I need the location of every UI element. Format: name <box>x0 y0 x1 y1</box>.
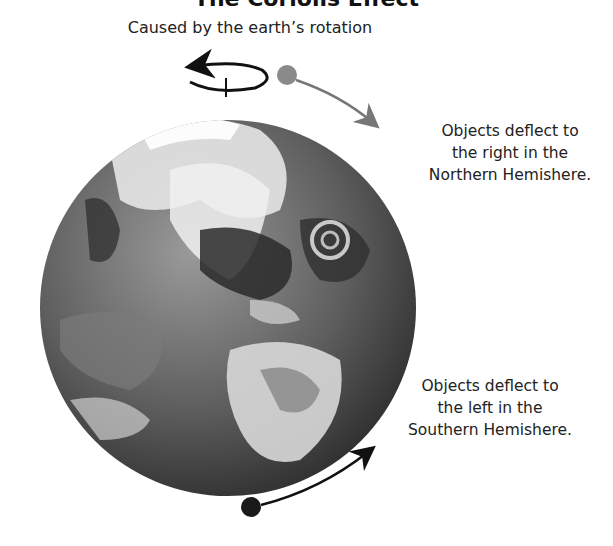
north-object-ball <box>277 65 297 85</box>
coriolis-diagram <box>0 0 613 546</box>
south-object-ball <box>241 497 261 517</box>
curved-arrow-right-icon <box>296 80 372 122</box>
earth-globe <box>40 119 416 496</box>
note-line: the right in the <box>415 142 605 164</box>
northern-hemisphere-note: Objects deflect to the right in the Nort… <box>415 120 605 186</box>
note-line: the left in the <box>395 397 585 419</box>
note-line: Southern Hemishere. <box>395 419 585 441</box>
north-deflection-path <box>277 65 372 122</box>
note-line: Objects deflect to <box>395 375 585 397</box>
note-line: Northern Hemishere. <box>415 164 605 186</box>
note-line: Objects deflect to <box>415 120 605 142</box>
southern-hemisphere-note: Objects deflect to the left in the South… <box>395 375 585 441</box>
counterclockwise-rotation-arrow-icon <box>190 64 267 97</box>
